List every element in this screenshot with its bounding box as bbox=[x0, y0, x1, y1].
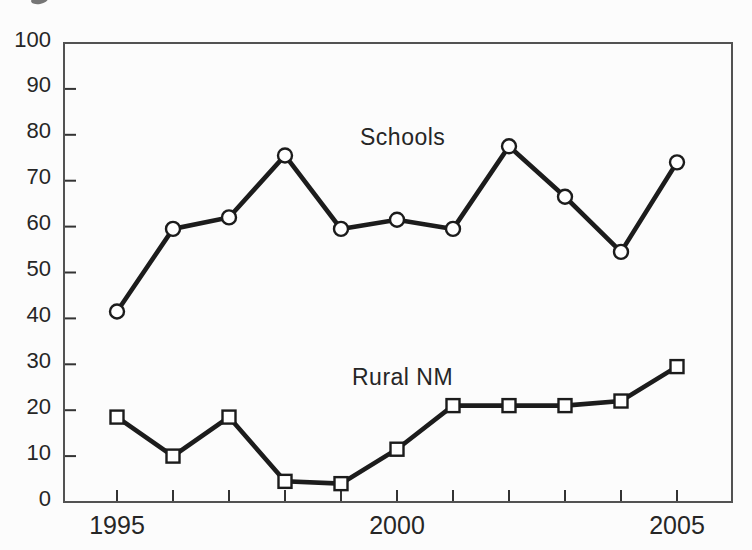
y-axis-tick-label: 70 bbox=[27, 164, 51, 189]
data-point-square bbox=[447, 399, 460, 412]
y-axis-tick-label: 10 bbox=[27, 440, 51, 465]
data-point-circle bbox=[670, 155, 684, 169]
y-axis-tick-label: 30 bbox=[27, 348, 51, 373]
data-point-circle bbox=[502, 139, 516, 153]
data-point-circle bbox=[614, 245, 628, 259]
x-axis-tick-label: 1995 bbox=[89, 511, 145, 539]
y-axis-tick-label: 90 bbox=[27, 72, 51, 97]
y-axis-tick-label: 40 bbox=[27, 302, 51, 327]
data-point-circle bbox=[110, 305, 124, 319]
plot-frame bbox=[64, 43, 732, 502]
data-point-circle bbox=[446, 222, 460, 236]
data-point-circle bbox=[558, 190, 572, 204]
data-point-circle bbox=[222, 210, 236, 224]
data-point-square bbox=[111, 411, 124, 424]
series-line-schools bbox=[117, 146, 677, 311]
y-axis-tick-label: 80 bbox=[27, 118, 51, 143]
data-point-square bbox=[335, 477, 348, 490]
x-axis-tick-label: 2005 bbox=[649, 511, 705, 539]
y-axis-tick-label: 100 bbox=[14, 27, 51, 52]
data-point-square bbox=[391, 443, 404, 456]
data-point-circle bbox=[334, 222, 348, 236]
data-point-square bbox=[279, 475, 292, 488]
data-point-circle bbox=[390, 213, 404, 227]
data-point-square bbox=[167, 450, 180, 463]
figure: 0102030405060708090100199520002005 Schoo… bbox=[0, 0, 752, 550]
data-point-circle bbox=[166, 222, 180, 236]
data-point-circle bbox=[278, 148, 292, 162]
series-label-rural-nm: Rural NM bbox=[352, 364, 453, 391]
data-point-square bbox=[503, 399, 516, 412]
line-chart: 0102030405060708090100199520002005 bbox=[0, 0, 752, 550]
x-axis-tick-label: 2000 bbox=[369, 511, 425, 539]
y-axis-tick-label: 20 bbox=[27, 394, 51, 419]
data-point-square bbox=[559, 399, 572, 412]
data-point-square bbox=[615, 395, 628, 408]
y-axis-tick-label: 60 bbox=[27, 210, 51, 235]
data-point-square bbox=[223, 411, 236, 424]
series-label-schools: Schools bbox=[360, 124, 445, 151]
data-point-square bbox=[671, 360, 684, 373]
y-axis-tick-label: 0 bbox=[39, 486, 51, 511]
y-axis-tick-label: 50 bbox=[27, 256, 51, 281]
